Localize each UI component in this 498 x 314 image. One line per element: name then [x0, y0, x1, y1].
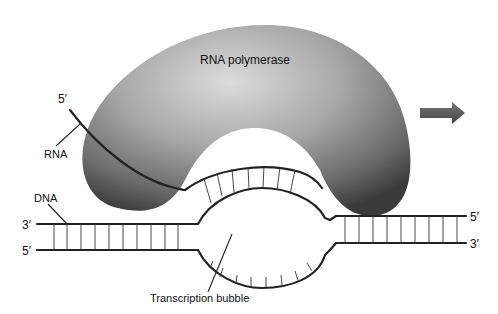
dna-label: DNA	[34, 192, 58, 204]
rna-polymerase-label: RNA polymerase	[200, 53, 290, 67]
rna-leader-line	[56, 124, 80, 146]
rna-5prime-label: 5′	[58, 92, 68, 106]
dna-right-duplex	[330, 216, 466, 250]
dna-left-duplex	[37, 224, 190, 250]
left-top-3prime-label: 3′	[22, 218, 32, 232]
transcription-diagram: RNA polymerase	[0, 0, 498, 314]
right-bottom-3prime-label: 3′	[470, 237, 480, 251]
right-top-5prime-label: 5′	[470, 210, 480, 224]
right-arrow-icon	[420, 102, 465, 124]
transcription-bubble-label: Transcription bubble	[150, 292, 249, 304]
transcription-bubble	[185, 166, 330, 288]
rna-label: RNA	[44, 148, 68, 160]
dna-leader-line	[48, 204, 67, 224]
bubble-leader-line	[208, 234, 232, 292]
left-bottom-5prime-label: 5′	[22, 244, 32, 258]
